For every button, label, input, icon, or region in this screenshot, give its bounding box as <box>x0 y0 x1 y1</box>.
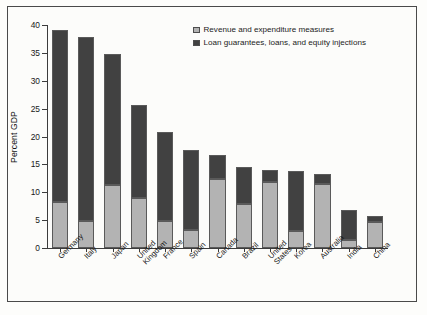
y-axis-title: Percent GDP <box>8 25 20 249</box>
bar-segment-loans <box>157 132 173 221</box>
y-axis-tick <box>42 81 47 82</box>
bar <box>52 25 68 248</box>
bar <box>341 25 357 248</box>
bar-segment-loans <box>367 216 383 222</box>
bar-segment-revenue <box>52 202 68 248</box>
bar-segment-loans <box>104 54 120 185</box>
y-axis-tick <box>42 137 47 138</box>
y-axis-tick <box>42 53 47 54</box>
bar <box>183 25 199 248</box>
bar-segment-loans <box>209 155 225 179</box>
bar-segment-loans <box>183 150 199 230</box>
bar <box>78 25 94 248</box>
bar-segment-revenue <box>131 198 147 248</box>
bar <box>131 25 147 248</box>
y-axis-tick-label: 25 <box>31 104 40 114</box>
y-axis-tick <box>42 192 47 193</box>
bar-segment-revenue <box>262 182 278 248</box>
y-axis-tick-label: 5 <box>35 215 40 225</box>
bar <box>262 25 278 248</box>
bar <box>209 25 225 248</box>
y-axis-tick-label: 0 <box>35 243 40 253</box>
y-axis-tick <box>42 248 47 249</box>
bar <box>367 25 383 248</box>
y-axis-tick-label: 30 <box>31 76 40 86</box>
bar <box>314 25 330 248</box>
y-axis-tick-label: 10 <box>31 187 40 197</box>
y-axis-tick-label: 20 <box>31 132 40 142</box>
y-axis-tick-label: 40 <box>31 20 40 30</box>
bar-segment-loans <box>131 105 147 198</box>
bar-segment-loans <box>288 171 304 231</box>
bar <box>236 25 252 248</box>
y-axis-tick <box>42 220 47 221</box>
bar-segment-loans <box>314 174 330 184</box>
bar-segment-loans <box>236 167 252 204</box>
bar-segment-loans <box>262 170 278 182</box>
bar-segment-loans <box>52 30 68 202</box>
y-axis-tick <box>42 109 47 110</box>
bar <box>288 25 304 248</box>
bar-segment-revenue <box>209 179 225 248</box>
bar <box>104 25 120 248</box>
y-axis-tick <box>42 164 47 165</box>
y-axis-tick-label: 15 <box>31 159 40 169</box>
y-axis-tick <box>42 25 47 26</box>
y-axis-tick-label: 35 <box>31 48 40 58</box>
bar-segment-revenue <box>314 184 330 248</box>
bar <box>157 25 173 248</box>
bar-segment-loans <box>78 37 94 221</box>
bar-segment-revenue <box>104 185 120 248</box>
chart-page: Revenue and expenditure measuresLoan gua… <box>0 0 427 315</box>
plot-area: 0510152025303540 <box>47 25 388 248</box>
bar-segment-loans <box>341 210 357 240</box>
